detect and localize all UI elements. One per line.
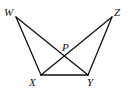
segment-wx <box>16 17 41 75</box>
label-z: Z <box>114 6 121 18</box>
geometry-diagram: W Z P X Y <box>0 0 135 88</box>
label-y: Y <box>87 76 95 88</box>
label-w: W <box>4 6 14 18</box>
label-p: P <box>61 41 69 53</box>
label-x: X <box>28 76 37 88</box>
segment-zy <box>88 17 112 75</box>
